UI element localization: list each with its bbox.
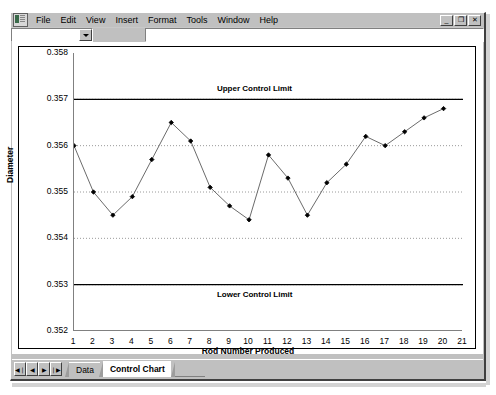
x-tick-label: 12: [278, 337, 296, 346]
chart-sheet: Diameter Rod Number Produced 0.3520.3530…: [12, 42, 483, 354]
sheet-tab-data-label: Data: [76, 365, 94, 375]
menu-label-file: File: [36, 15, 51, 25]
menu-item-help[interactable]: Help: [254, 14, 283, 27]
x-tick-label: 6: [161, 337, 179, 346]
menu-label-format: Format: [148, 15, 177, 25]
close-icon: ✕: [469, 15, 480, 24]
tab-bar-filler: [175, 361, 205, 377]
x-tick-label: 17: [375, 337, 393, 346]
menu-bar: File Edit View Insert Format Tools Windo…: [11, 13, 484, 28]
y-tick-label: 0.353: [34, 280, 68, 289]
x-tick-label: 7: [181, 337, 199, 346]
chevron-down-icon[interactable]: [79, 29, 92, 41]
sheet-tab-bar: ◀❘ ◀ ▶ ❘▶ Data Control Chart: [12, 359, 483, 378]
sheet-tab-control-chart[interactable]: Control Chart: [103, 361, 171, 377]
menu-label-tools: Tools: [186, 15, 207, 25]
menu-item-view[interactable]: View: [81, 14, 110, 27]
y-tick-label: 0.355: [34, 187, 68, 196]
formula-bar-row: [11, 28, 484, 42]
formula-input[interactable]: [145, 28, 484, 42]
upper-control-limit-label: Upper Control Limit: [217, 84, 292, 93]
menu-item-insert[interactable]: Insert: [110, 14, 143, 27]
x-axis-title: Rod Number Produced: [19, 346, 477, 356]
x-tick-label: 9: [220, 337, 238, 346]
menu-label-insert: Insert: [115, 15, 138, 25]
chart-frame[interactable]: Diameter Rod Number Produced 0.3520.3530…: [18, 46, 476, 349]
x-tick-label: 8: [200, 337, 218, 346]
nav-prev-sheet-icon[interactable]: ◀: [26, 362, 38, 376]
x-tick-label: 19: [414, 337, 432, 346]
sheet-nav-buttons: ◀❘ ◀ ▶ ❘▶: [14, 362, 62, 376]
x-tick-label: 11: [259, 337, 277, 346]
x-tick-label: 16: [356, 337, 374, 346]
x-tick-label: 13: [297, 337, 315, 346]
nav-first-sheet-icon[interactable]: ◀❘: [14, 362, 26, 376]
x-tick-label: 14: [317, 337, 335, 346]
lower-control-limit-label: Lower Control Limit: [217, 290, 293, 299]
nav-first-label: ◀❘: [15, 366, 25, 373]
nav-prev-label: ◀: [30, 366, 35, 373]
application-window: File Edit View Insert Format Tools Windo…: [10, 12, 486, 381]
restore-button[interactable]: ❐: [454, 15, 467, 26]
menu-label-window: Window: [217, 15, 249, 25]
minimize-button[interactable]: _: [440, 15, 453, 26]
y-tick-label: 0.356: [34, 141, 68, 150]
menu-item-tools[interactable]: Tools: [181, 14, 212, 27]
y-tick-label: 0.352: [34, 326, 68, 335]
menu-item-window[interactable]: Window: [212, 14, 254, 27]
x-tick-label: 3: [103, 337, 121, 346]
nav-last-label: ❘▶: [51, 366, 61, 373]
formula-bar-gap: [93, 28, 145, 42]
y-tick-label: 0.357: [34, 94, 68, 103]
name-box[interactable]: [11, 28, 93, 42]
sheet-tab-data[interactable]: Data: [69, 362, 100, 377]
nav-next-label: ▶: [42, 366, 47, 373]
menu-label-edit: Edit: [61, 15, 77, 25]
window-shadow-right: [486, 14, 490, 385]
x-tick-label: 5: [142, 337, 160, 346]
tab-separator: [171, 362, 175, 377]
sheet-tab-control-chart-label: Control Chart: [110, 364, 165, 374]
menu-label-help: Help: [259, 15, 278, 25]
x-tick-label: 10: [239, 337, 257, 346]
x-tick-label: 4: [122, 337, 140, 346]
restore-icon: ❐: [455, 15, 466, 24]
x-tick-label: 20: [434, 337, 452, 346]
y-tick-label: 0.354: [34, 233, 68, 242]
x-tick-label: 18: [395, 337, 413, 346]
nav-next-sheet-icon[interactable]: ▶: [38, 362, 50, 376]
menu-label-view: View: [86, 15, 105, 25]
y-axis-title: Diameter: [5, 147, 15, 183]
window-shadow-bottom: [12, 383, 486, 387]
menu-item-file[interactable]: File: [31, 14, 56, 27]
x-tick-label: 15: [336, 337, 354, 346]
close-button[interactable]: ✕: [468, 15, 481, 26]
minimize-icon: _: [441, 15, 452, 24]
x-tick-label: 21: [453, 337, 471, 346]
sheet-tabs: Data Control Chart: [65, 361, 205, 377]
nav-last-sheet-icon[interactable]: ❘▶: [50, 362, 62, 376]
excel-document-icon[interactable]: [13, 13, 28, 27]
x-tick-label: 2: [83, 337, 101, 346]
y-tick-label: 0.358: [34, 48, 68, 57]
window-controls: _ ❐ ✕: [440, 15, 481, 26]
menu-item-edit[interactable]: Edit: [56, 14, 82, 27]
menu-item-format[interactable]: Format: [143, 14, 182, 27]
x-tick-label: 1: [64, 337, 82, 346]
